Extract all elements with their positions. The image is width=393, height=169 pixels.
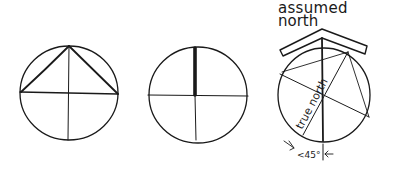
- triangle-left-side: [21, 46, 69, 92]
- true-north-label: true north: [293, 76, 331, 131]
- panel-circle-north-bar: [148, 47, 248, 143]
- vertical-diameter-lower: [195, 95, 196, 140]
- triangle-right-side: [69, 46, 118, 94]
- sketch-diagram: assumed north true north <45°: [0, 0, 393, 169]
- assumed-north-chevron-icon: [280, 29, 367, 56]
- vertical-diameter: [68, 46, 69, 140]
- angle-label: <45°: [297, 150, 321, 160]
- triangle-side-right: [348, 52, 369, 117]
- panel-circle-triangle: [20, 46, 118, 140]
- horizontal-diameter: [148, 95, 248, 96]
- angle-arrow-right-icon: [325, 151, 333, 157]
- angle-arrow-left-icon: [284, 141, 294, 150]
- assumed-north-label-line2: north: [278, 12, 318, 30]
